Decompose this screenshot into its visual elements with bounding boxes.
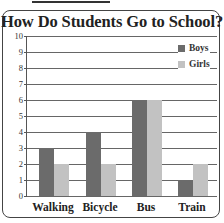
gridline (27, 196, 217, 197)
y-tick-mark (24, 84, 27, 85)
legend-item-girls: Girls (178, 56, 210, 72)
legend-swatch-girls (178, 61, 185, 68)
y-tick-mark (24, 148, 27, 149)
legend-item-boys: Boys (178, 40, 210, 56)
gridline (27, 116, 217, 117)
bar-bus-girls (147, 100, 162, 196)
bar-bicycle-boys (86, 132, 101, 196)
y-tick-mark (24, 196, 27, 197)
y-tick-label: 10 (3, 31, 23, 41)
chart-title: How Do Students Go to School? (0, 12, 224, 32)
decorative-top-line (32, 1, 110, 3)
y-tick-mark (24, 180, 27, 181)
legend-label-boys: Boys (189, 43, 209, 53)
gridline (27, 100, 217, 101)
legend-label-girls: Girls (189, 59, 210, 69)
gridline (27, 36, 217, 37)
y-tick-label: 1 (3, 175, 23, 185)
y-tick-mark (24, 132, 27, 133)
gridline (27, 148, 217, 149)
y-tick-label: 6 (3, 95, 23, 105)
y-tick-label: 2 (3, 159, 23, 169)
y-tick-label: 5 (3, 111, 23, 121)
bar-walking-girls (54, 164, 69, 196)
y-tick-label: 7 (3, 79, 23, 89)
x-label-train: Train (162, 201, 222, 213)
legend: Boys Girls (178, 40, 210, 72)
y-tick-label: 8 (3, 63, 23, 73)
bar-walking-boys (39, 148, 54, 196)
bar-bus-boys (132, 100, 147, 196)
y-tick-mark (24, 36, 27, 37)
bar-bicycle-girls (101, 164, 116, 196)
y-tick-label: 4 (3, 127, 23, 137)
y-tick-mark (24, 116, 27, 117)
y-tick-label: 9 (3, 47, 23, 57)
y-tick-mark (24, 164, 27, 165)
legend-swatch-boys (178, 45, 185, 52)
y-tick-mark (24, 68, 27, 69)
gridline (27, 84, 217, 85)
y-tick-label: 3 (3, 143, 23, 153)
y-tick-mark (24, 52, 27, 53)
y-tick-mark (24, 100, 27, 101)
gridline (27, 132, 217, 133)
bar-train-girls (193, 164, 208, 196)
bar-train-boys (178, 180, 193, 196)
y-tick-label: 0 (3, 191, 23, 201)
